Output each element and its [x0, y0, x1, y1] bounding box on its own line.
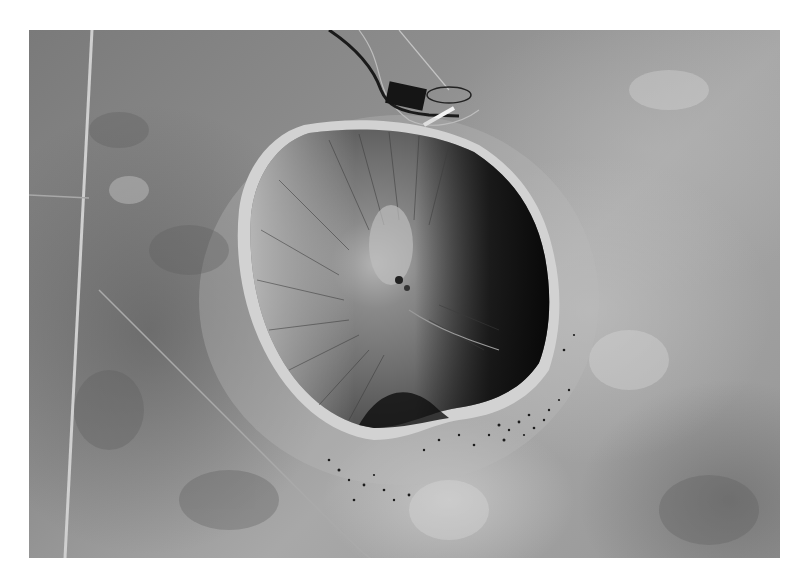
- visitor-center-building: [385, 81, 427, 110]
- aerial-crater-photo: [29, 30, 780, 558]
- crater-center: [369, 205, 413, 285]
- road-straight: [65, 30, 92, 558]
- crater-scene: [29, 30, 780, 558]
